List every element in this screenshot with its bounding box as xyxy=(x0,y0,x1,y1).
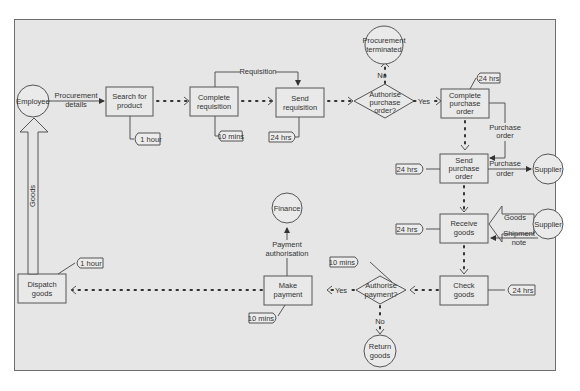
flow-no-label: No xyxy=(377,71,387,80)
svg-text:order: order xyxy=(455,172,473,181)
employee-entity: Employee xyxy=(16,85,49,117)
svg-text:authorisation: authorisation xyxy=(266,249,309,258)
svg-text:1 hour: 1 hour xyxy=(140,135,162,144)
svg-text:Return: Return xyxy=(369,342,392,351)
svg-text:Dispatch: Dispatch xyxy=(27,280,56,289)
svg-text:payment?: payment? xyxy=(365,290,398,299)
flow-goods-to-employee: Goods xyxy=(20,118,48,274)
process-check-goods: Check goods 24 hrs xyxy=(440,276,535,305)
svg-text:order: order xyxy=(456,107,474,116)
svg-text:details: details xyxy=(65,100,87,109)
svg-text:24 hrs: 24 hrs xyxy=(397,225,418,234)
svg-text:24 hrs: 24 hrs xyxy=(513,286,534,295)
svg-text:Procurement: Procurement xyxy=(363,36,407,45)
flow-requisition: Requisition xyxy=(215,67,298,87)
svg-text:product: product xyxy=(117,101,143,110)
flow-purchase-order-internal: Purchase order xyxy=(489,103,521,158)
svg-text:payment: payment xyxy=(274,290,304,299)
flow-purchase-order-to-supplier: Purchase order xyxy=(488,159,531,178)
svg-text:Payment: Payment xyxy=(272,240,303,249)
svg-text:Requisition: Requisition xyxy=(239,67,276,76)
svg-text:1 hour: 1 hour xyxy=(80,259,102,268)
flow-no-label: No xyxy=(375,317,385,326)
svg-text:10 mins: 10 mins xyxy=(329,258,356,267)
process-send-requisition: Send requisition 24 hrs xyxy=(269,88,324,142)
svg-text:goods: goods xyxy=(454,290,475,299)
process-make-payment: Make payment 10 mins xyxy=(248,276,312,323)
svg-text:terminated: terminated xyxy=(366,45,401,54)
svg-text:goods: goods xyxy=(454,228,475,237)
svg-text:note: note xyxy=(512,238,527,247)
svg-text:10 mins: 10 mins xyxy=(248,314,275,323)
svg-text:Make: Make xyxy=(279,281,297,290)
entity-procurement-terminated: Procurement terminated xyxy=(363,26,407,64)
svg-text:Employee: Employee xyxy=(16,97,49,106)
svg-text:Goods: Goods xyxy=(28,185,37,207)
process-complete-purchase-order: Complete purchase order 24 hrs xyxy=(441,73,500,118)
svg-text:order: order xyxy=(496,169,514,178)
svg-text:goods: goods xyxy=(370,351,391,360)
svg-text:Finance: Finance xyxy=(274,204,301,213)
flow-yes-label: Yes xyxy=(418,97,430,106)
flow-procurement-details: Procurement details xyxy=(49,91,104,109)
svg-text:24 hrs: 24 hrs xyxy=(479,74,500,83)
entity-return-goods: Return goods xyxy=(364,335,396,367)
process-search-for-product: Search for product 1 hour xyxy=(106,87,162,145)
svg-text:Procurement: Procurement xyxy=(55,91,99,100)
process-complete-requisition: Complete requisition 10 mins xyxy=(190,87,244,141)
svg-text:24 hrs: 24 hrs xyxy=(271,133,292,142)
entity-finance: Finance xyxy=(272,193,302,223)
svg-text:Search for: Search for xyxy=(112,92,147,101)
decision-authorise-purchase-order: Authorise purchase order? xyxy=(354,84,414,118)
svg-text:Goods: Goods xyxy=(504,213,526,222)
entity-supplier-top: Supplier xyxy=(533,154,563,184)
svg-text:Purchase: Purchase xyxy=(489,159,521,168)
process-send-purchase-order: Send purchase order 24 hrs xyxy=(396,154,488,183)
decision-authorise-payment: Authorise payment? 10 mins xyxy=(329,257,406,304)
svg-text:Receive: Receive xyxy=(450,219,477,228)
svg-text:Supplier: Supplier xyxy=(534,165,562,174)
svg-text:requisition: requisition xyxy=(197,102,231,111)
svg-text:Check: Check xyxy=(453,281,475,290)
svg-text:Supplier: Supplier xyxy=(534,220,562,229)
svg-text:24 hrs: 24 hrs xyxy=(397,165,418,174)
process-diagram: Employee Procurement details Search for … xyxy=(0,0,580,391)
svg-text:Complete: Complete xyxy=(198,93,230,102)
svg-text:Shipment: Shipment xyxy=(503,229,536,238)
process-receive-goods: Receive goods 24 hrs xyxy=(396,214,488,243)
svg-text:goods: goods xyxy=(32,289,53,298)
flow-payment-authorisation: Payment authorisation xyxy=(266,228,309,276)
svg-text:Authorise: Authorise xyxy=(365,281,397,290)
svg-text:order: order xyxy=(496,131,514,140)
flow-yes-label: Yes xyxy=(335,286,347,295)
entity-supplier-mid: Supplier xyxy=(533,209,563,239)
svg-text:10 mins: 10 mins xyxy=(218,132,245,141)
svg-text:requisition: requisition xyxy=(283,103,317,112)
svg-text:Send: Send xyxy=(291,94,309,103)
svg-text:order?: order? xyxy=(374,106,396,115)
